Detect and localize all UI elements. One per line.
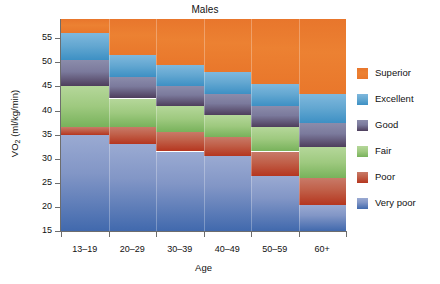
band-superior [204,19,252,72]
band-very-poor [156,152,204,232]
y-axis-title-base: VO [9,143,20,157]
y-axis-title: VO2 (ml/kg/min) [9,64,20,184]
band-poor [109,127,157,144]
x-tick-mark [299,232,300,237]
band-superior [109,19,157,55]
legend-swatch-icon [357,120,368,131]
age-column-30-39 [156,19,204,231]
band-poor [299,178,347,205]
x-tick-mark [109,232,110,237]
band-poor [251,152,299,176]
y-tick-mark [55,86,60,87]
y-tick-label: 30 [22,154,52,163]
band-superior [156,19,204,65]
x-tick-mark [156,232,157,237]
legend-swatch-icon [357,94,368,105]
y-axis-title-units: (ml/kg/min) [9,90,20,140]
age-column-50-59 [251,19,299,231]
age-column-13-19 [61,19,109,231]
y-tick-mark [55,135,60,136]
y-tick-label: 50 [22,57,52,66]
y-tick-label: 40 [22,106,52,115]
y-tick-mark [55,38,60,39]
legend-label: Good [375,119,398,131]
band-superior [61,19,109,33]
legend-swatch-icon [357,198,368,209]
y-tick-mark [55,159,60,160]
band-superior [251,19,299,84]
band-very-poor [109,144,157,231]
band-very-poor [251,176,299,231]
legend-label: Superior [375,67,411,79]
x-axis-title: Age [61,262,346,273]
band-poor [156,132,204,151]
band-poor [204,137,252,156]
band-excellent [156,65,204,87]
band-excellent [109,55,157,77]
band-excellent [61,33,109,60]
band-poor [61,127,109,134]
band-good [204,94,252,116]
y-tick-label: 20 [22,202,52,211]
legend-swatch-icon [357,68,368,79]
y-tick-mark [55,62,60,63]
band-very-poor [204,156,252,231]
plot-area [61,19,346,231]
band-very-poor [61,135,109,231]
legend-label: Very poor [375,197,416,209]
x-tick-label-60+: 60+ [292,244,352,254]
band-fair [109,99,157,128]
y-tick-label: 25 [22,178,52,187]
y-tick-label: 15 [22,226,52,235]
band-excellent [204,72,252,94]
y-axis-title-subscript: 2 [14,140,21,144]
legend-label: Poor [375,171,395,183]
y-tick-label: 45 [22,81,52,90]
y-tick-mark [55,111,60,112]
x-tick-mark [61,232,62,237]
band-fair [299,147,347,178]
band-fair [204,115,252,137]
age-column-40-49 [204,19,252,231]
age-column-60+ [299,19,347,231]
legend-label: Fair [375,145,391,157]
band-fair [61,86,109,127]
chart-title: Males [60,4,350,15]
y-tick-mark [55,231,60,232]
legend-label: Excellent [375,93,414,105]
band-good [156,86,204,105]
legend-swatch-icon [357,146,368,157]
chart-figure: Males 152025303540455055 13–1920–2930–39… [0,0,440,284]
x-tick-mark [251,232,252,237]
band-excellent [299,94,347,123]
band-good [109,77,157,99]
y-tick-label: 35 [22,130,52,139]
y-tick-label: 55 [22,33,52,42]
band-good [251,106,299,128]
legend-swatch-icon [357,172,368,183]
band-good [299,123,347,147]
band-fair [251,127,299,151]
age-column-20-29 [109,19,157,231]
band-fair [156,106,204,133]
x-tick-mark [204,232,205,237]
band-very-poor [299,205,347,232]
band-excellent [251,84,299,106]
x-tick-mark [346,232,347,237]
band-good [61,60,109,87]
y-axis-line [60,19,61,232]
y-tick-mark [55,183,60,184]
y-tick-mark [55,207,60,208]
band-superior [299,19,347,94]
